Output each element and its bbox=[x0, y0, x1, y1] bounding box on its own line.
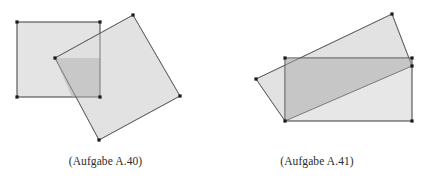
a40-vertex-marker bbox=[98, 95, 101, 98]
figure-a40-caption: (Aufgabe A.40) bbox=[0, 155, 211, 167]
a41-vertex-marker bbox=[410, 56, 413, 59]
a40-vertex-marker bbox=[98, 20, 101, 23]
figure-a41-svg bbox=[211, 0, 423, 150]
figure-a40-svg bbox=[0, 0, 211, 150]
a41-vertex-marker bbox=[254, 77, 257, 80]
figure-a41: (Aufgabe A.41) bbox=[211, 0, 423, 186]
a40-vertex-marker bbox=[53, 56, 56, 59]
figure-a41-caption: (Aufgabe A.41) bbox=[211, 155, 423, 167]
a41-vertex-marker bbox=[410, 119, 413, 122]
figure-page: (Aufgabe A.40) bbox=[0, 0, 423, 186]
figure-a40-canvas bbox=[0, 0, 211, 150]
a40-vertex-marker bbox=[178, 94, 181, 97]
a40-vertex-marker bbox=[15, 95, 18, 98]
a41-vertex-marker bbox=[390, 12, 393, 15]
figure-a40: (Aufgabe A.40) bbox=[0, 0, 211, 186]
a41-vertex-marker bbox=[410, 64, 413, 67]
a40-vertex-marker bbox=[97, 138, 100, 141]
figure-a41-canvas bbox=[211, 0, 423, 150]
a40-vertex-marker bbox=[15, 20, 18, 23]
a41-vertex-marker bbox=[283, 119, 286, 122]
a40-vertex-marker bbox=[131, 13, 134, 16]
a41-vertex-marker bbox=[283, 56, 286, 59]
